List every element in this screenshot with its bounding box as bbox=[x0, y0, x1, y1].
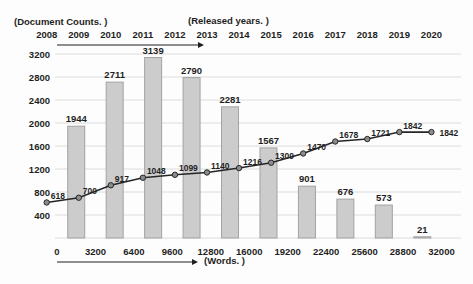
line-point bbox=[268, 160, 273, 165]
y-tick-label: 3200 bbox=[29, 49, 50, 60]
year-label: 2019 bbox=[389, 29, 410, 40]
y-tick-label: 800 bbox=[34, 187, 50, 198]
year-label: 2012 bbox=[164, 29, 185, 40]
y-tick-label: 2000 bbox=[29, 118, 50, 129]
point-value-label: 700 bbox=[83, 186, 97, 196]
bar-value-label: 2790 bbox=[181, 65, 202, 76]
point-value-label: 618 bbox=[51, 191, 65, 201]
bar-value-label: 2281 bbox=[219, 94, 241, 105]
bar-value-label: 901 bbox=[299, 173, 316, 184]
point-value-label: 1140 bbox=[211, 161, 230, 171]
line-point bbox=[397, 129, 402, 134]
point-value-label: 917 bbox=[115, 174, 129, 184]
line-point bbox=[300, 151, 305, 156]
bar bbox=[375, 205, 392, 238]
bar-value-label: 573 bbox=[376, 192, 392, 203]
x-tick-label: 22400 bbox=[313, 246, 339, 257]
line-point bbox=[172, 172, 177, 177]
y-tick-label: 1600 bbox=[29, 141, 50, 152]
point-value-label: 1842 bbox=[403, 121, 422, 131]
y-tick-label: 400 bbox=[34, 210, 50, 221]
top-axis-caption: (Released years. ) bbox=[188, 15, 269, 26]
line-point bbox=[204, 170, 209, 175]
y-tick-label: 1200 bbox=[29, 164, 50, 175]
bottom-axis-arrow-head bbox=[192, 259, 198, 265]
bar-value-label: 3139 bbox=[143, 45, 164, 56]
point-value-label: 1099 bbox=[179, 163, 198, 173]
x-tick-label: 6400 bbox=[123, 246, 144, 257]
line-point bbox=[140, 175, 145, 180]
year-label: 2009 bbox=[68, 29, 89, 40]
point-value-label: 1216 bbox=[243, 157, 262, 167]
year-label: 2010 bbox=[100, 29, 121, 40]
bar-value-label: 676 bbox=[337, 186, 353, 197]
bottom-axis-caption: (Words. ) bbox=[204, 255, 245, 266]
year-label: 2016 bbox=[293, 29, 314, 40]
point-value-label: 1470 bbox=[307, 142, 326, 152]
bar-value-label: 21 bbox=[417, 224, 428, 235]
point-value-label: 1842 bbox=[439, 128, 458, 138]
x-tick-label: 28800 bbox=[390, 246, 416, 257]
bar bbox=[337, 199, 354, 238]
x-tick-label: 32000 bbox=[428, 246, 454, 257]
year-label: 2014 bbox=[228, 29, 250, 40]
bar bbox=[68, 126, 85, 238]
line-point bbox=[236, 165, 241, 170]
point-value-label: 1678 bbox=[339, 130, 358, 140]
bar bbox=[145, 58, 162, 238]
x-tick-label: 0 bbox=[54, 246, 59, 257]
point-value-label: 1721 bbox=[371, 128, 390, 138]
bar-value-label: 1567 bbox=[258, 135, 279, 146]
year-label: 2015 bbox=[261, 29, 283, 40]
x-tick-label: 9600 bbox=[162, 246, 183, 257]
year-label: 2017 bbox=[325, 29, 346, 40]
line-point bbox=[44, 200, 49, 205]
line-point bbox=[429, 129, 434, 134]
year-label: 2013 bbox=[196, 29, 217, 40]
bar bbox=[298, 186, 315, 238]
bar bbox=[183, 78, 200, 238]
year-label: 2011 bbox=[133, 29, 154, 40]
bar-value-label: 2711 bbox=[104, 69, 125, 80]
line-point bbox=[333, 139, 338, 144]
chart-canvas: 4008001200160020002400280032001944271131… bbox=[0, 0, 473, 284]
bar bbox=[222, 107, 239, 238]
bar bbox=[106, 82, 123, 238]
x-tick-label: 3200 bbox=[85, 246, 106, 257]
x-tick-label: 19200 bbox=[274, 246, 300, 257]
year-label: 2020 bbox=[421, 29, 442, 40]
bar bbox=[414, 237, 431, 238]
x-tick-label: 25600 bbox=[351, 246, 377, 257]
line-point bbox=[76, 195, 81, 200]
point-value-label: 1309 bbox=[275, 151, 294, 161]
line-point bbox=[365, 136, 370, 141]
y-tick-label: 2800 bbox=[29, 72, 50, 83]
bar-value-label: 1944 bbox=[66, 113, 88, 124]
word-count-histogram-figure: (Document Counts. ) (Released years. ) (… bbox=[0, 0, 473, 284]
top-axis-arrow-head bbox=[198, 42, 204, 48]
point-value-label: 1048 bbox=[147, 166, 166, 176]
year-label: 2018 bbox=[357, 29, 378, 40]
y-axis-caption: (Document Counts. ) bbox=[14, 16, 107, 27]
year-label: 2008 bbox=[36, 29, 57, 40]
y-tick-label: 2400 bbox=[29, 95, 50, 106]
line-point bbox=[108, 183, 113, 188]
